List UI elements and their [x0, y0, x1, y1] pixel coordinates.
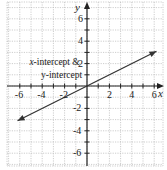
y-tick-label: 4	[78, 36, 83, 46]
y-tick-label: -2	[73, 103, 81, 113]
y-axis-label: y	[75, 2, 80, 13]
y-tick-label: -6	[73, 148, 81, 158]
x-tick-label: -6	[15, 90, 23, 100]
intercept-annotation: x-intercept & y-intercept	[27, 58, 82, 80]
axes	[7, 2, 164, 166]
x-tick-label: 6	[152, 90, 157, 100]
x-tick-label: -4	[37, 90, 45, 100]
x-axis-label: x	[158, 88, 163, 99]
grid-lines	[7, 2, 163, 166]
y-tick-label: -4	[73, 126, 81, 136]
coordinate-graph	[0, 0, 167, 170]
x-tick-label: 2	[107, 90, 112, 100]
x-tick-label: -2	[60, 90, 68, 100]
annotation-line-1: x-intercept &	[27, 58, 82, 68]
annotation-line-1-text: -intercept &	[34, 57, 80, 67]
x-tick-label: 4	[129, 90, 134, 100]
y-tick-label: 6	[78, 14, 83, 24]
annotation-line-2: y-intercept	[27, 71, 82, 81]
